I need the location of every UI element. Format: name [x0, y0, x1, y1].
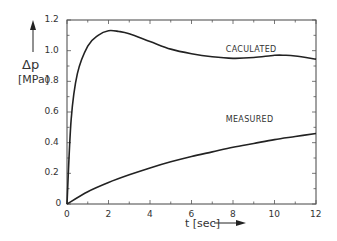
x-tick-label: 10: [269, 210, 280, 219]
series-measured: [67, 133, 316, 204]
y-tick-label: 0.6: [45, 107, 59, 116]
y-tick-label: 1.0: [45, 46, 59, 55]
x-tick-label: 8: [230, 210, 236, 219]
chart: [0, 0, 337, 241]
x-tick-label: 4: [147, 210, 153, 219]
y-tick-label: 0.8: [45, 76, 59, 85]
x-tick-label: 12: [310, 210, 321, 219]
axis-ticks: [67, 20, 316, 204]
plot-frame: [67, 20, 316, 204]
curve-label: CACULATED: [226, 46, 277, 54]
x-tick-label: 2: [106, 210, 112, 219]
y-tick-label: 1.2: [45, 15, 59, 24]
x-tick-label: 0: [64, 210, 70, 219]
y-tick-label: 0.4: [45, 138, 59, 147]
series-caculated: [67, 31, 316, 204]
y-tick-label: 0: [56, 199, 62, 208]
curve-label: MEASURED: [226, 116, 274, 124]
x-tick-label: 6: [189, 210, 195, 219]
y-axis-symbol: Δp: [22, 58, 39, 71]
data-series: [67, 31, 316, 204]
y-tick-label: 0.2: [45, 168, 59, 177]
x-axis-label: t [sec]: [185, 218, 220, 229]
y-axis-arrow-icon: [30, 20, 36, 52]
